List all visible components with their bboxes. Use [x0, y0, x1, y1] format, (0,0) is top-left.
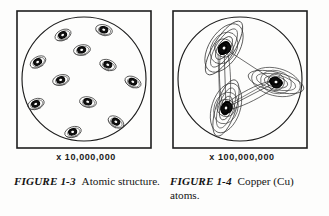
copper-atom-group — [195, 14, 307, 141]
figure-1-4-block: x 100,000,000 FIGURE 1-4Copper (Cu) atom… — [162, 0, 322, 216]
figure-page: x 10,000,000 FIGURE 1-3Atomic structure. — [0, 0, 329, 216]
figure-1-4-frame — [173, 11, 307, 148]
figure-1-4-caption: FIGURE 1-4Copper (Cu) atoms. — [170, 174, 322, 202]
figure-1-4-caption-label: FIGURE 1-4 — [170, 175, 232, 187]
figure-1-3-circle — [22, 17, 146, 141]
figure-1-3-caption-label: FIGURE 1-3 — [14, 175, 76, 187]
figure-1-3-caption: FIGURE 1-3Atomic structure. — [14, 174, 166, 188]
figure-1-3-block: x 10,000,000 FIGURE 1-3Atomic structure. — [6, 0, 166, 216]
figure-1-4-diagram — [172, 10, 308, 149]
figure-1-3-caption-text: Atomic structure. — [82, 175, 160, 187]
atom-group — [26, 23, 143, 140]
figure-1-3-magnification-label: x 10,000,000 — [6, 152, 166, 162]
figure-1-4-magnification-label: x 100,000,000 — [162, 152, 322, 162]
figure-1-3-diagram — [16, 10, 152, 149]
